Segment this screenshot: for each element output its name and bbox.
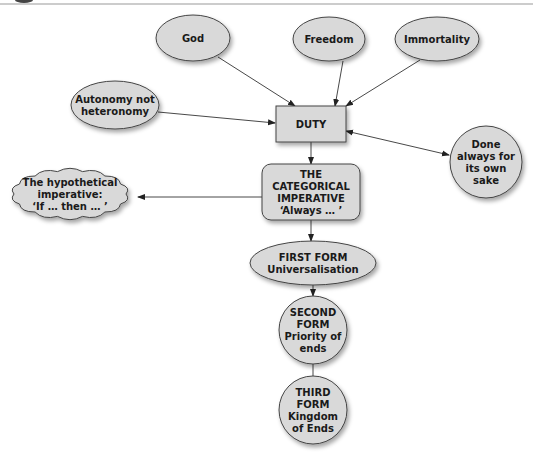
- node-third-form-label: of Ends: [292, 423, 334, 434]
- node-autonomy-label: Autonomy not: [75, 94, 155, 105]
- node-second-form: SECONDFORMPriority ofends: [279, 296, 347, 364]
- node-third-form-label: FORM: [297, 399, 330, 410]
- node-done-always-label: always for: [457, 151, 515, 162]
- node-third-form-label: THIRD: [296, 387, 331, 398]
- edge-autonomy-to-duty: [158, 112, 275, 123]
- node-god: God: [156, 15, 230, 61]
- node-done-always-label: Done: [471, 139, 500, 150]
- node-first-form-label: Universalisation: [267, 264, 358, 275]
- node-freedom: Freedom: [293, 17, 365, 61]
- node-immortality-label: Immortality: [404, 34, 471, 45]
- node-freedom-label: Freedom: [304, 34, 353, 45]
- node-categorical-label: CATEGORICAL: [272, 181, 350, 192]
- concept-map: GodFreedomImmortalityAutonomy notheteron…: [0, 0, 533, 457]
- node-categorical-label: IMPERATIVE: [277, 193, 345, 204]
- node-god-label: God: [182, 33, 204, 44]
- edge-god-to-duty: [218, 57, 295, 106]
- node-third-form: THIRDFORMKingdomof Ends: [279, 376, 347, 444]
- node-done-always-label: its own: [466, 163, 507, 174]
- node-duty: DUTY: [276, 106, 346, 142]
- node-categorical-label: ‘Always … ’: [280, 205, 343, 216]
- node-second-form-label: ends: [299, 343, 326, 354]
- node-hypothetical: The hypotheticalimperative:‘If … then … …: [12, 168, 128, 219]
- node-first-form: FIRST FORMUniversalisation: [250, 241, 376, 285]
- node-second-form-label: SECOND: [290, 307, 337, 318]
- node-categorical: THECATEGORICALIMPERATIVE‘Always … ’: [262, 164, 360, 220]
- corner-mark: [15, 0, 33, 3]
- node-hypothetical-label: The hypothetical: [23, 177, 118, 188]
- node-done-always-label: sake: [473, 175, 499, 186]
- node-categorical-label: THE: [300, 169, 322, 180]
- node-hypothetical-label: imperative:: [38, 189, 103, 200]
- node-done-always: Donealways forits ownsake: [450, 126, 522, 198]
- node-immortality: Immortality: [395, 17, 479, 61]
- node-second-form-label: Priority of: [285, 331, 343, 342]
- node-second-form-label: FORM: [297, 319, 330, 330]
- node-autonomy-label: heteronomy: [81, 106, 150, 117]
- nodes: GodFreedomImmortalityAutonomy notheteron…: [12, 15, 522, 444]
- edge-immortality-to-duty: [346, 60, 420, 106]
- edge-freedom-to-duty: [335, 61, 343, 106]
- node-autonomy: Autonomy notheteronomy: [71, 81, 159, 129]
- node-hypothetical-label: ‘If … then … ’: [32, 201, 107, 212]
- node-first-form-label: FIRST FORM: [279, 252, 348, 263]
- edge-duty-to-done-always: [346, 131, 449, 155]
- node-third-form-label: Kingdom: [288, 411, 338, 422]
- node-duty-label: DUTY: [296, 119, 327, 130]
